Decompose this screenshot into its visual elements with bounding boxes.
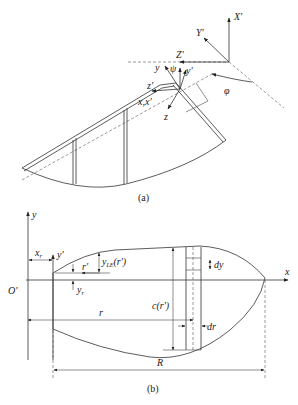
label-r-prime: r' [82,261,89,272]
phi-arc [212,74,252,82]
label-z-prime: z' [146,80,154,91]
label-z: z [163,111,168,122]
label-y-prime: y' [185,65,193,76]
rotor-plane-dashed-line [229,62,284,108]
figure-a: X' Y' Z' φ y ψ y' z' x,x' [22,11,284,204]
label-Y-prime: Y' [196,27,205,38]
blade-element-diagram: X' Y' Z' φ y ψ y' z' x,x' [0,0,298,405]
right-angle-marker [186,83,208,112]
label-origin: O' [8,285,18,296]
label-x-x-prime: x,x' [137,96,152,107]
label-psi: ψ [170,63,177,74]
label-chord: c(r') [152,300,170,312]
label-y-r: yr [76,284,84,297]
label-dy: dy [214,259,224,270]
caption-a: (a) [138,192,149,204]
label-r: r [99,307,103,318]
axis-Y-prime [204,38,229,62]
label-phi: φ [224,85,230,96]
label-y-le: yLE(r') [101,256,127,268]
label-y: y [154,62,160,73]
caption-b: (b) [147,383,159,395]
blade-root-edge-inner [173,85,223,142]
label-Z-prime: Z' [176,49,185,60]
label-dr: dr [207,321,216,332]
label-y: y [31,209,37,220]
figure-b: y x O' y' xr r' yr yLE(r') dy c(r [8,209,290,395]
label-x: x [284,266,290,277]
label-x-r: xr [34,247,42,260]
label-X-prime: X' [233,11,243,22]
axis-z [168,89,180,109]
label-y-prime: y' [56,249,64,260]
blade-root-edge-outer [176,83,226,140]
label-R: R [156,357,163,368]
blade-axis-dashed [22,74,212,180]
axis-z-prime [152,89,180,91]
